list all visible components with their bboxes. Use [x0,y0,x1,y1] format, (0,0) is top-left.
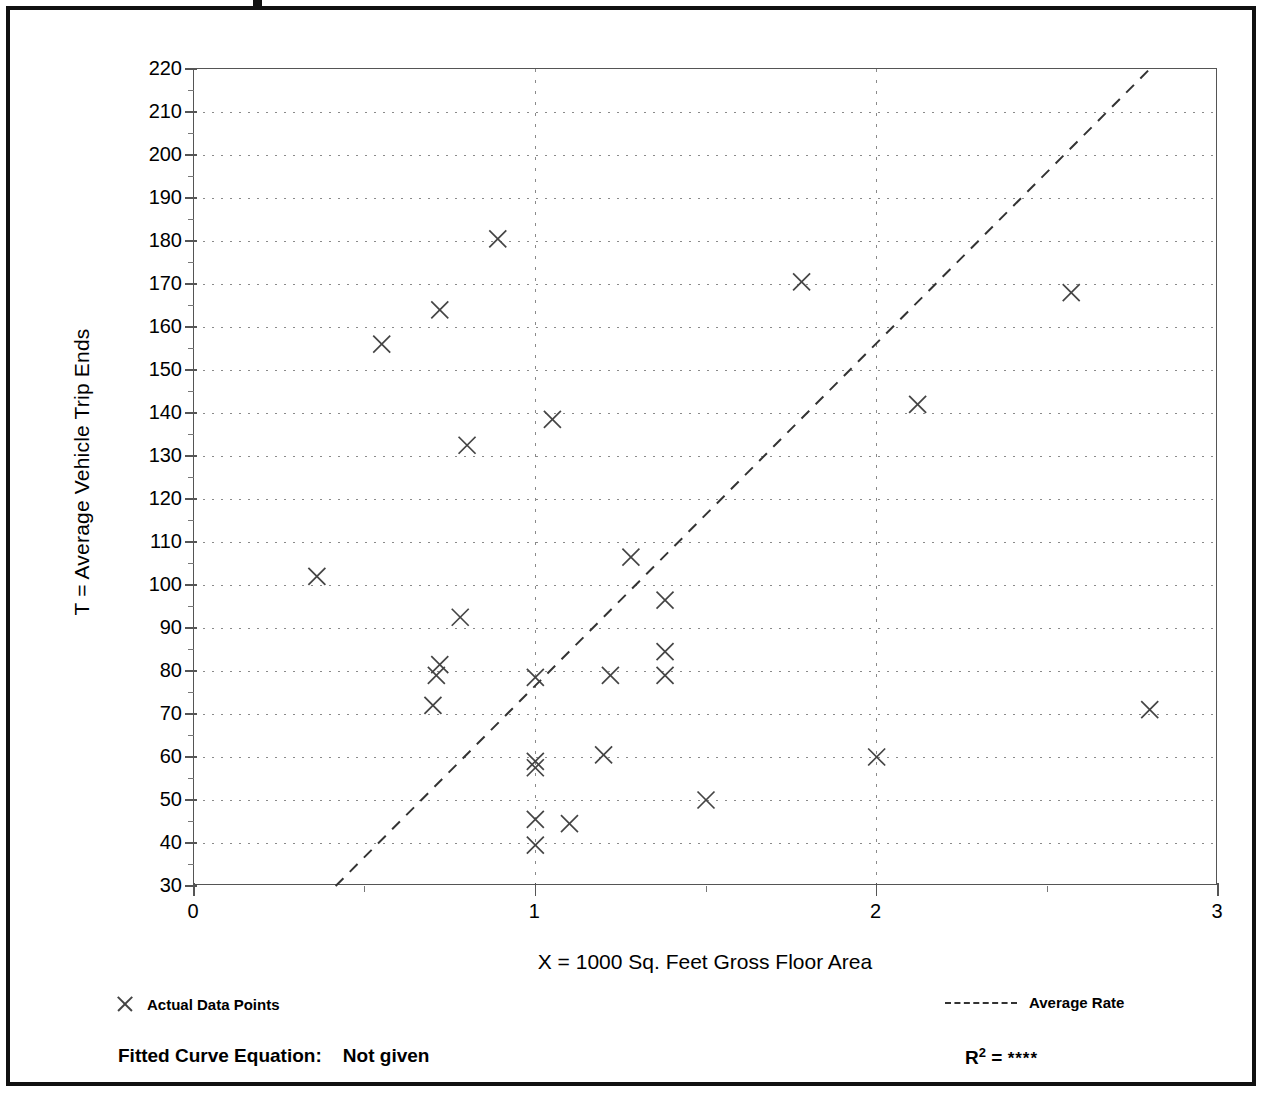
y-tick-label: 130 [122,445,182,465]
x-tick-label: 2 [846,900,906,923]
x-tick-label: 3 [1187,900,1247,923]
x-tick-label: 1 [504,900,564,923]
y-tick-label: 110 [122,531,182,551]
r-squared-equals: = [991,1047,1002,1068]
data-point-marker [452,609,469,626]
fitted-curve-value: Not given [343,1045,430,1066]
data-point-marker [602,667,619,684]
y-tick-label: 200 [122,144,182,164]
data-point-marker [657,643,674,660]
y-axis-tick-labels: 3040506070809010011012013014015016017018… [120,68,182,885]
r-squared-block: R2 = **** [965,1045,1038,1069]
y-axis-title: T = Average Vehicle Trip Ends [70,272,94,672]
data-point-marker [527,811,544,828]
data-point-marker [622,549,639,566]
data-point-marker [489,230,506,247]
fitted-curve-equation: Fitted Curve Equation: Not given [118,1045,429,1067]
y-tick-label: 70 [122,703,182,723]
y-tick-label: 180 [122,230,182,250]
y-tick-label: 120 [122,488,182,508]
plot-area [193,68,1217,885]
y-tick-label: 90 [122,617,182,637]
legend-label-actual-data-points: Actual Data Points [147,996,280,1013]
data-point-marker [698,792,715,809]
y-tick-label: 190 [122,187,182,207]
r-squared-symbol: R [965,1047,979,1068]
legend-item-actual-data-points: Actual Data Points [115,994,280,1014]
data-point-marker [527,669,544,686]
r-squared-exponent: 2 [979,1045,986,1060]
plot-svg [194,69,1218,886]
legend-item-average-rate: Average Rate [945,994,1124,1011]
y-tick-label: 150 [122,359,182,379]
y-tick-label: 80 [122,660,182,680]
y-tick-label: 160 [122,316,182,336]
data-point-marker [657,592,674,609]
y-tick-label: 30 [122,875,182,895]
data-point-marker [424,697,441,714]
data-point-marker [544,411,561,428]
data-point-marker [793,273,810,290]
y-tick-label: 170 [122,273,182,293]
y-tick-label: 210 [122,101,182,121]
chart-page: T = Average Vehicle Trip Ends 3040506070… [0,0,1264,1098]
fitted-curve-label: Fitted Curve Equation: [118,1045,322,1066]
data-point-marker [657,667,674,684]
data-point-marker [561,815,578,832]
y-tick-label: 60 [122,746,182,766]
data-point-marker [431,301,448,318]
data-point-marker [1141,701,1158,718]
y-tick-label: 100 [122,574,182,594]
y-tick-label: 50 [122,789,182,809]
data-point-marker [428,667,445,684]
figure-frame: T = Average Vehicle Trip Ends 3040506070… [6,6,1256,1086]
grid-lines [194,69,1218,886]
trend-line-group [336,69,1150,886]
x-axis-tick-labels: 0123 [193,900,1217,930]
data-point-marker [595,746,612,763]
y-tick-label: 40 [122,832,182,852]
legend-label-average-rate: Average Rate [1029,994,1124,1011]
dashed-line-icon [945,1002,1017,1004]
x-axis-title: X = 1000 Sq. Feet Gross Floor Area [193,950,1217,974]
x-tick-label: 0 [163,900,223,923]
axis-ticks [185,69,1218,896]
data-point-marker [1063,284,1080,301]
chart-legend: Actual Data Points Average Rate [10,990,1260,1030]
data-point-marker [308,568,325,585]
data-point-marker [373,336,390,353]
y-tick-label: 220 [122,58,182,78]
y-tick-label: 140 [122,402,182,422]
data-point-marker [431,656,448,673]
data-point-marker [909,396,926,413]
data-point-marker [459,437,476,454]
chart-footer: Fitted Curve Equation: Not given R2 = **… [10,1045,1260,1085]
r-squared-value: **** [1008,1049,1038,1068]
data-points-group [308,230,1158,853]
x-marker-icon [115,994,135,1014]
